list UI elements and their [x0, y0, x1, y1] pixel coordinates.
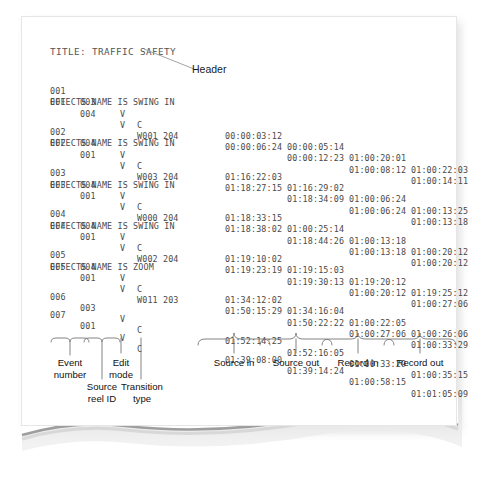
edl-row: 007 001 V C 01:39:08:00 01:39:14:24 01:0… — [50, 299, 450, 310]
edl-effect-name: EFFECTS NAME IS SWING IN — [50, 221, 450, 232]
edl-row: 001 004 V W001 204 00:00:06:24 00:00:12:… — [50, 86, 450, 97]
annot-event-number: Event number — [44, 357, 96, 380]
edl-row: 002 004 V C 01:16:22:03 01:16:29:02 01:0… — [50, 116, 450, 127]
edl-row: 003 001 V W000 204 01:18:38:02 01:18:44:… — [50, 168, 450, 179]
edl-effect-name: EFFECTS NAME IS SWING IN — [50, 180, 450, 191]
cell-record-in: 01:00:22:05 — [349, 318, 406, 329]
edl-effect-name: EFFECTS NAME IS ZOOM — [50, 262, 450, 273]
edl-effect-name: EFFECTS NAME IS SWING IN — [50, 97, 450, 108]
cell-transition: C — [137, 325, 142, 336]
cell-event-number: 007 — [50, 310, 66, 321]
annot-transition-type: Transition type — [116, 381, 168, 404]
annot-edit-mode: Edit mode — [100, 357, 142, 380]
printed-page: TITLE: TRAFFIC SAFETY Header 001 003 V C… — [22, 17, 456, 425]
edl-event-block: 002 004 V C 01:16:22:03 01:16:29:02 01:0… — [50, 116, 450, 150]
column-annotations: Event number Source reel ID Edit mode Tr… — [22, 337, 456, 417]
edl-row: 004 004 V C 01:19:10:02 01:19:15:03 01:1… — [50, 198, 450, 209]
page-content: TITLE: TRAFFIC SAFETY Header 001 003 V C… — [22, 17, 456, 417]
page-scene: TITLE: TRAFFIC SAFETY Header 001 003 V C… — [0, 0, 489, 490]
edl-row: 006 003 V C 01:52:14:25 01:52:16:05 01:0… — [50, 280, 450, 291]
cell-source-out: 01:50:22:22 — [287, 318, 344, 329]
edl-row: 005 004 V C 01:34:12:02 01:34:16:04 01:0… — [50, 239, 450, 250]
edl-row: 001 003 V C 00:00:03:12 00:00:05:14 01:0… — [50, 75, 450, 86]
edl-event-block: 004 004 V C 01:19:10:02 01:19:15:03 01:1… — [50, 198, 450, 232]
edl-row: 004 001 V W002 204 01:19:23:19 01:19:30:… — [50, 209, 450, 220]
edl-effect-name: EFFECTS NAME IS SWING IN — [50, 138, 450, 149]
header-callout-label: Header — [192, 63, 226, 75]
edl-row: 005 001 V W011 203 01:50:15:29 01:50:22:… — [50, 250, 450, 261]
edl-event-block: 006 003 V C 01:52:14:25 01:52:16:05 01:0… — [50, 280, 450, 291]
edl-event-block: 007 001 V C 01:39:08:00 01:39:14:24 01:0… — [50, 299, 450, 310]
edl-event-block: 003 004 V C 01:18:33:15 01:00:25:14 01:0… — [50, 157, 450, 191]
cell-edit-mode: V — [120, 314, 125, 325]
edl-event-block: 005 004 V C 01:34:12:02 01:34:16:04 01:0… — [50, 239, 450, 273]
cell-source-reel: 001 — [80, 321, 96, 332]
edl-row: 002 001 V W003 204 01:18:27:15 01:18:34:… — [50, 127, 450, 138]
edl-event-block: 001 003 V C 00:00:03:12 00:00:05:14 01:0… — [50, 75, 450, 109]
annot-record-out: Record out — [384, 357, 456, 369]
edl-listing: 001 003 V C 00:00:03:12 00:00:05:14 01:0… — [50, 75, 450, 318]
edl-row: 003 004 V C 01:18:33:15 01:00:25:14 01:0… — [50, 157, 450, 168]
